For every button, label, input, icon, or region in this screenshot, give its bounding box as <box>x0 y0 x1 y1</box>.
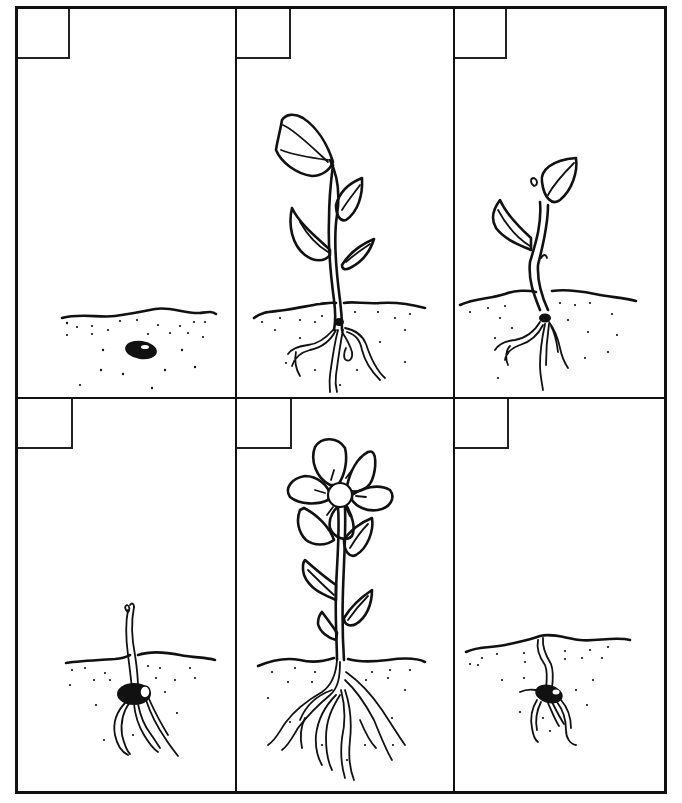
budding-plant-illustration <box>254 115 425 392</box>
seed-in-soil-illustration <box>62 308 216 389</box>
illustrations <box>0 0 682 803</box>
seed-icon <box>533 682 565 707</box>
sprout-emerging-illustration <box>66 604 215 756</box>
germinating-seed-illustration <box>466 635 630 745</box>
flowering-plant-illustration <box>258 439 425 780</box>
plant-life-cycle-worksheet <box>0 0 682 803</box>
seedling-illustration <box>460 158 636 390</box>
seed-icon <box>124 339 158 361</box>
